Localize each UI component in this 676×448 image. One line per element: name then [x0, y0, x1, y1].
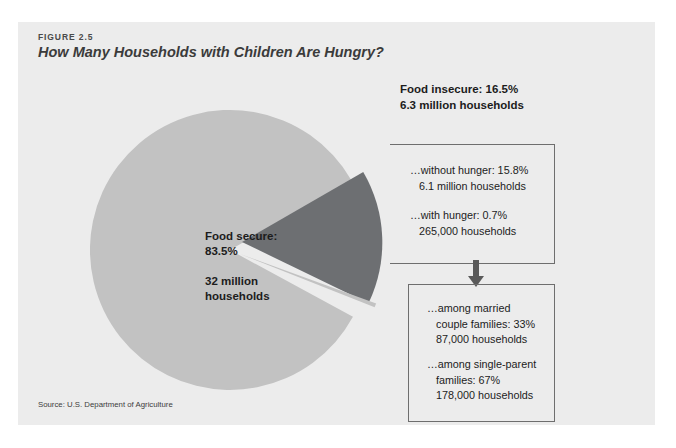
- food-secure-text: Food secure:: [205, 230, 277, 242]
- entry-with-hunger: …with hunger: 0.7% 265,000 households: [410, 208, 516, 239]
- without-hunger-percent: …without hunger: 15.8%: [410, 164, 528, 176]
- married-percent: couple families: 33%: [427, 317, 535, 333]
- entry-single-parent-families: …among single-parent families: 67% 178,0…: [427, 357, 536, 404]
- single-parent-households: 178,000 households: [427, 388, 536, 404]
- married-label: …among married: [427, 302, 510, 314]
- food-insecure-header: Food insecure: 16.5% 6.3 million househo…: [400, 82, 524, 113]
- food-secure-households-word: households: [205, 290, 270, 302]
- with-hunger-households: 265,000 households: [410, 224, 516, 240]
- without-hunger-households: 6.1 million households: [410, 179, 528, 195]
- pie-label-food-secure-households: 32 million households: [205, 274, 270, 304]
- callout-box-hunger-breakdown: …without hunger: 15.8% 6.1 million house…: [390, 144, 555, 264]
- pie-label-food-secure: Food secure: 83.5%: [205, 229, 277, 259]
- page-title: How Many Households with Children Are Hu…: [38, 44, 384, 60]
- figure-label: FIGURE 2.5: [38, 32, 93, 42]
- food-insecure-percent: Food insecure: 16.5%: [400, 83, 518, 95]
- source-note: Source: U.S. Department of Agriculture: [38, 400, 173, 409]
- single-parent-label: …among single-parent: [427, 358, 536, 370]
- food-secure-households-count: 32 million: [205, 275, 258, 287]
- entry-without-hunger: …without hunger: 15.8% 6.1 million house…: [410, 163, 528, 194]
- with-hunger-percent: …with hunger: 0.7%: [410, 209, 507, 221]
- pie-chart: Food secure: 83.5% 32 million households: [90, 102, 410, 392]
- food-secure-percent: 83.5%: [205, 245, 238, 257]
- figure-panel: FIGURE 2.5 How Many Households with Chil…: [18, 22, 655, 425]
- callout-box-family-breakdown: …among married couple families: 33% 87,0…: [408, 284, 555, 422]
- married-households: 87,000 households: [427, 332, 535, 348]
- entry-married-couple-families: …among married couple families: 33% 87,0…: [427, 301, 535, 348]
- single-parent-percent: families: 67%: [427, 373, 536, 389]
- food-insecure-households: 6.3 million households: [400, 99, 524, 111]
